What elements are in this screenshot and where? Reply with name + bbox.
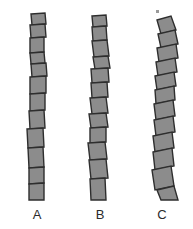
column-b-segment	[92, 15, 107, 27]
column-b-segment	[93, 56, 110, 69]
column-a-segment	[28, 147, 44, 168]
column-a-segment	[30, 93, 45, 111]
column-label-a: A	[27, 208, 47, 221]
column-b-segment	[90, 127, 106, 143]
column-a-segment	[31, 13, 46, 25]
column-a-segment	[27, 128, 44, 148]
column-b-segment	[92, 40, 109, 57]
column-a-segment	[29, 110, 45, 129]
stray-speck-icon	[156, 10, 159, 13]
column-a-group	[27, 13, 47, 200]
column-b-segment	[91, 82, 108, 98]
column-a-segment	[29, 183, 44, 200]
column-a-segment	[30, 52, 45, 64]
column-label-b: B	[90, 208, 110, 221]
column-a-segment	[31, 63, 47, 77]
column-label-c: C	[152, 208, 172, 221]
column-a-segment	[30, 24, 46, 38]
stray-speck-group	[156, 10, 159, 13]
column-b-segment	[91, 68, 109, 83]
column-b-segment	[88, 142, 107, 160]
column-b-segment	[90, 178, 106, 200]
column-a-segment	[29, 167, 44, 184]
figure-canvas	[0, 0, 193, 229]
column-a-segment	[30, 76, 46, 94]
column-b-segment	[89, 159, 108, 179]
column-a-segment	[30, 37, 44, 53]
column-b-segment	[92, 26, 107, 41]
column-b-segment	[90, 97, 108, 114]
segmented-column-figure: A B C	[0, 0, 193, 229]
column-b-segment	[89, 113, 108, 128]
